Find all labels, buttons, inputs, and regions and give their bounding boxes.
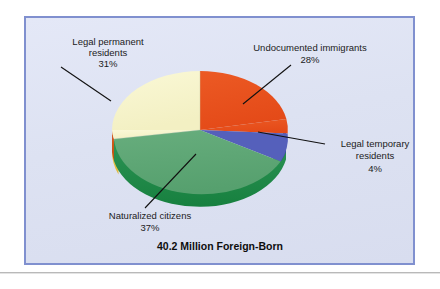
callout-naturalized-value: 37% bbox=[140, 222, 160, 233]
figure-root: Legal permanent residents 31% Undocument… bbox=[0, 0, 440, 289]
callout-legal-permanent-value: 31% bbox=[98, 58, 118, 69]
callout-legal-permanent-line1: Legal permanent bbox=[72, 36, 144, 47]
callout-naturalized-line1: Naturalized citizens bbox=[109, 210, 192, 221]
callout-legal-permanent-line2: residents bbox=[89, 47, 128, 58]
callout-undocumented-value: 28% bbox=[300, 54, 320, 65]
chart-title: 40.2 Million Foreign-Born bbox=[157, 240, 283, 252]
callout-undocumented-line1: Undocumented immigrants bbox=[253, 42, 367, 53]
callout-legal-temporary-line2: residents bbox=[356, 150, 395, 161]
callout-legal-temporary-value: 4% bbox=[368, 163, 382, 174]
leader-line-legal-permanent bbox=[61, 67, 111, 101]
pie-chart: Legal permanent residents 31% Undocument… bbox=[0, 0, 440, 289]
callout-legal-temporary-line1: Legal temporary bbox=[341, 138, 410, 149]
pie-slice-legal-permanent-residents[interactable] bbox=[112, 71, 200, 130]
